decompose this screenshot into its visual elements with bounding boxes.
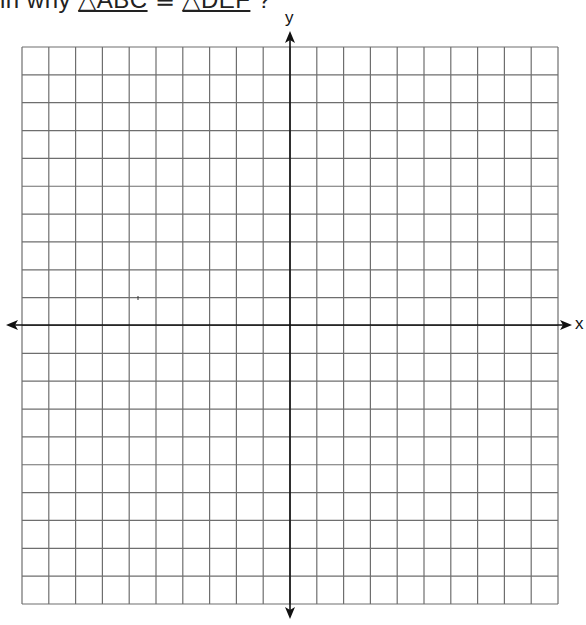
y-axis-label: y [285, 8, 294, 28]
x-axis-label: x [575, 314, 584, 334]
x-axis [6, 320, 572, 330]
coordinate-plane [0, 0, 586, 625]
